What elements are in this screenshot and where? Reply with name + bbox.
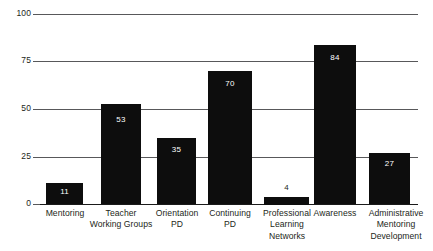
category-label-teacher-working-groups: Teacher Working Groups <box>86 208 156 231</box>
category-label-line: Administrative <box>360 208 432 219</box>
category-label-line: Continuing <box>200 208 260 219</box>
tick-stub-100 <box>33 14 40 15</box>
y-tick-label-25: 25 <box>1 152 31 161</box>
category-label-line: Working Groups <box>86 219 156 230</box>
y-tick-label-100: 100 <box>1 9 31 18</box>
bar-awareness <box>314 45 356 204</box>
category-label-line: Mentoring <box>360 219 432 230</box>
bar-value-teacher-working-groups: 53 <box>101 116 141 124</box>
category-label-line: Teacher <box>86 208 156 219</box>
category-label-line: PD <box>147 219 207 230</box>
bar-continuing-pd <box>208 71 252 204</box>
gridline-100 <box>40 14 418 15</box>
gridline-75 <box>40 61 418 62</box>
bar-value-administrative-mentoring-development: 27 <box>369 160 410 168</box>
category-label-awareness: Awareness <box>305 208 365 219</box>
plot-area: 100 75 50 25 0 11 53 35 70 <box>0 0 433 251</box>
category-label-line: Learning <box>255 219 319 230</box>
axis-baseline-0 <box>40 204 418 205</box>
category-label-administrative-mentoring-development: Administrative Mentoring Development <box>360 208 432 242</box>
category-label-continuing-pd: Continuing PD <box>200 208 260 231</box>
y-tick-0: 0 <box>0 199 31 209</box>
category-label-line: Networks <box>255 231 319 242</box>
bar-value-awareness: 84 <box>314 54 356 62</box>
y-tick-100: 100 <box>0 9 31 19</box>
category-label-line: Awareness <box>305 208 365 219</box>
category-label-line: Orientation <box>147 208 207 219</box>
category-label-line: PD <box>200 219 260 230</box>
y-tick-label-0: 0 <box>1 199 31 208</box>
y-tick-label-75: 75 <box>1 56 31 65</box>
bar-chart: 100 75 50 25 0 11 53 35 70 <box>0 0 433 251</box>
tick-stub-0 <box>33 204 40 205</box>
bar-value-mentoring: 11 <box>46 188 83 196</box>
y-tick-50: 50 <box>0 104 31 114</box>
bar-professional-learning-networks <box>264 197 309 205</box>
bar-value-professional-learning-networks: 4 <box>264 184 309 192</box>
y-tick-25: 25 <box>0 152 31 162</box>
bar-value-orientation-pd: 35 <box>157 146 196 154</box>
y-tick-75: 75 <box>0 56 31 66</box>
bar-value-continuing-pd: 70 <box>208 80 252 88</box>
y-tick-label-50: 50 <box>1 104 31 113</box>
tick-stub-25 <box>33 157 40 158</box>
tick-stub-50 <box>33 109 40 110</box>
category-label-line: Development <box>360 231 432 242</box>
category-label-orientation-pd: Orientation PD <box>147 208 207 231</box>
tick-stub-75 <box>33 61 40 62</box>
